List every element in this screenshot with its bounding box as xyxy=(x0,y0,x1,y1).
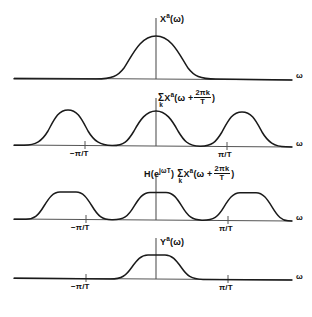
fraction-2pik-over-t: 2πkT xyxy=(214,165,231,182)
tick-label-neg-pi-over-t: −π/T xyxy=(71,283,90,291)
summation-symbol: Σ k xyxy=(158,93,164,103)
omega-axis-label: ω xyxy=(296,140,303,148)
omega-axis-label: ω xyxy=(296,273,303,281)
filtered-replicas-curve xyxy=(14,192,292,221)
omega-axis-line xyxy=(14,219,292,221)
tick-label-pos-pi-over-t: π/T xyxy=(218,151,232,159)
replicas-curve xyxy=(14,110,292,147)
tick-label-neg-pi-over-t: −π/T xyxy=(70,150,89,158)
tick-label-pos-pi-over-t: π/T xyxy=(219,225,233,233)
panel-filtered-replicas: H(ejωT) Σ k Xa(ω +2πkT) −π/T π/T ω xyxy=(0,160,312,234)
panel-periodic-replicas-plot xyxy=(0,84,312,160)
panel-label-h-sum-xa: H(ejωT) Σ k Xa(ω +2πkT) xyxy=(144,166,234,183)
panel-label-ya: Ya(ω) xyxy=(160,236,184,247)
panel-label-xa: Xa(ω) xyxy=(160,13,184,24)
summation-symbol: Σ k xyxy=(177,169,183,179)
omega-axis-line xyxy=(14,145,292,147)
panel-label-sum-xa: Σ k Xa(ω +2πkT) xyxy=(158,90,215,107)
panel-output-spectrum: Ya(ω) −π/T π/T ω xyxy=(0,234,312,317)
omega-axis-label: ω xyxy=(296,72,303,80)
panel-continuous-spectrum: Xa(ω) ω xyxy=(0,0,312,84)
panel-output-spectrum-plot xyxy=(0,234,312,317)
tick-label-pos-pi-over-t: π/T xyxy=(219,284,233,292)
output-spectrum-curve xyxy=(14,255,292,280)
spectra-figure: Xa(ω) ω Σ k Xa(ω +2πkT) −π/T π/T ω xyxy=(0,0,312,317)
spectrum-curve xyxy=(14,36,292,80)
panel-continuous-spectrum-plot xyxy=(0,0,312,84)
omega-axis-label: ω xyxy=(296,214,303,222)
fraction-2pik-over-t: 2πkT xyxy=(194,89,211,106)
panel-periodic-replicas: Σ k Xa(ω +2πkT) −π/T π/T ω xyxy=(0,84,312,160)
tick-label-neg-pi-over-t: −π/T xyxy=(71,224,90,232)
